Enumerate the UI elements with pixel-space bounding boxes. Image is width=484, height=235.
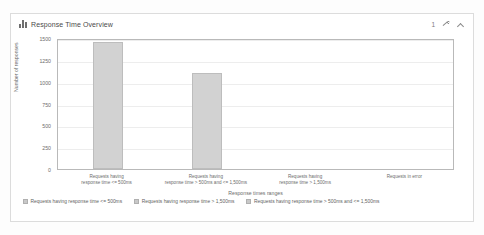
legend-label: Requests having response time <= 500ms [31,199,123,204]
legend-swatch [134,199,139,204]
y-axis-tick-label: 250 [42,145,51,151]
panel-header: Response Time Overview 1 [11,14,473,34]
x-axis-title: Response times ranges [57,190,454,196]
bar-slot [157,40,256,169]
response-time-overview-panel: Response Time Overview 1 Number of respo… [10,13,474,222]
x-axis-tick-label: Requests in error [355,174,454,180]
legend-item[interactable]: Requests having response time > 500ms an… [246,199,379,204]
panel-title-group: Response Time Overview [19,20,113,28]
bar-chart-icon [19,20,27,28]
legend-label: Requests having response time > 500ms an… [254,199,379,204]
bar-slot [257,40,356,169]
bar-slot [356,40,455,169]
x-axis-tick-label: Requests havingresponse time > 1,500ms [256,174,355,186]
y-axis-tick-label: 750 [42,102,51,108]
legend-item[interactable]: Requests having response time > 1,500ms [134,199,234,204]
plot-area [57,39,454,170]
legend-swatch [23,199,28,204]
y-axis-tick-label: 1500 [39,36,51,42]
bar-series [58,40,453,169]
bar[interactable] [192,73,222,169]
y-axis-tick-label: 1000 [39,80,51,86]
y-axis-tick-label: 1250 [39,58,51,64]
y-axis-tick-label: 500 [42,123,51,129]
bar-slot [58,40,157,169]
panel-count-badge: 1 [431,21,435,28]
chevron-up-icon[interactable] [457,20,465,28]
panel-toolbar: 1 [431,20,465,28]
wrench-icon[interactable] [442,20,450,28]
y-axis-ticks: 1500125010007505002500 [19,34,51,170]
x-axis-tick-label: Requests havingresponse time <= 500ms [57,174,156,186]
legend-swatch [246,199,251,204]
y-axis-tick-label: 0 [48,167,51,173]
legend-item[interactable]: Requests having response time <= 500ms [23,199,122,204]
legend-label: Requests having response time > 1,500ms [142,199,235,204]
page-title: Response Time Overview [31,21,113,28]
x-axis-tick-label: Requests havingresponse time > 500ms and… [156,174,255,186]
bar[interactable] [93,42,123,169]
chart-area: Number of responses 15001250100075050025… [11,34,473,221]
chart-legend: Requests having response time <= 500msRe… [23,199,379,204]
page-root: Response Time Overview 1 Number of respo… [0,0,484,235]
